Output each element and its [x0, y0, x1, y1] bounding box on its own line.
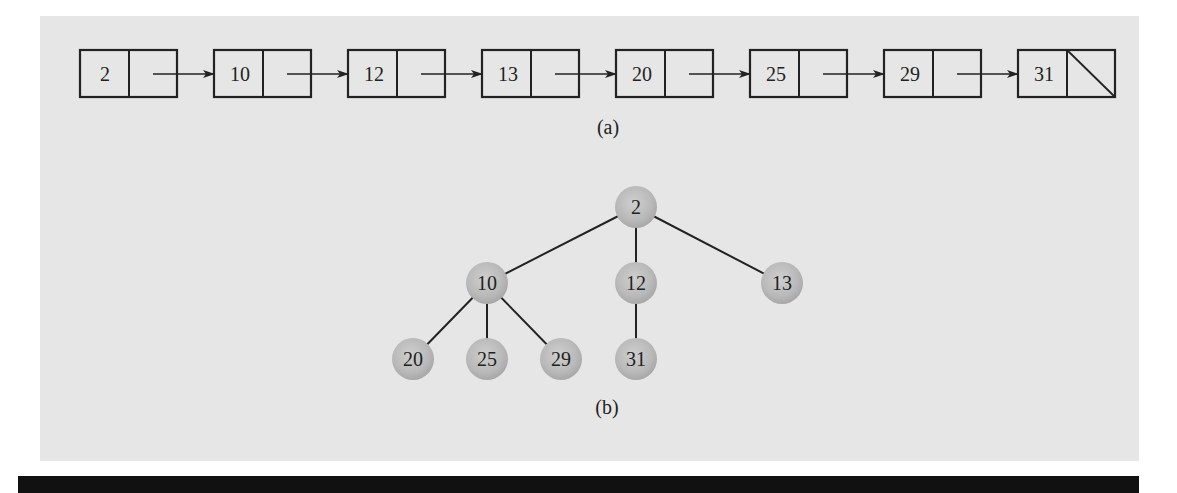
list-node-value: 12	[364, 63, 384, 85]
caption-a: (a)	[597, 116, 619, 139]
tree-node-value: 10	[477, 272, 497, 294]
linked-list: 2 10 12 13 20 2	[80, 50, 1115, 139]
tree-node-value: 13	[772, 272, 792, 294]
list-node: 10	[214, 50, 348, 97]
tree-node-value: 31	[626, 348, 646, 370]
list-node-value: 13	[498, 63, 518, 85]
list-node: 29	[884, 50, 1018, 97]
tree-node: 13	[761, 262, 803, 304]
list-node-value: 29	[900, 63, 920, 85]
list-node-value: 10	[230, 63, 250, 85]
list-node-value: 25	[766, 63, 786, 85]
tree-node-value: 20	[403, 348, 423, 370]
figure-canvas: 2 10 12 13 20 2	[0, 0, 1177, 493]
tree-node-value: 25	[477, 348, 497, 370]
list-node: 2	[80, 50, 214, 97]
tree-edge	[636, 207, 782, 283]
tree-node: 29	[540, 338, 582, 380]
tree: 2 10 12 13 20 25 29 31 (b)	[392, 186, 803, 419]
caption-b: (b)	[595, 396, 618, 419]
list-node: 12	[348, 50, 482, 97]
list-node-value: 20	[632, 63, 652, 85]
null-pointer-icon	[1067, 50, 1115, 97]
list-node-value: 2	[100, 63, 110, 85]
tree-node: 31	[615, 338, 657, 380]
tree-node-value: 12	[626, 272, 646, 294]
tree-node-value: 29	[551, 348, 571, 370]
tree-node: 25	[466, 338, 508, 380]
tree-node: 12	[615, 262, 657, 304]
list-node: 25	[750, 50, 884, 97]
list-node-tail: 31	[1018, 50, 1115, 97]
list-node: 20	[616, 50, 750, 97]
list-node: 13	[482, 50, 616, 97]
tree-node: 10	[466, 262, 508, 304]
tree-node: 20	[392, 338, 434, 380]
tree-node-value: 2	[631, 196, 641, 218]
tree-edge	[487, 207, 636, 283]
tree-node: 2	[615, 186, 657, 228]
list-node-value: 31	[1034, 63, 1054, 85]
